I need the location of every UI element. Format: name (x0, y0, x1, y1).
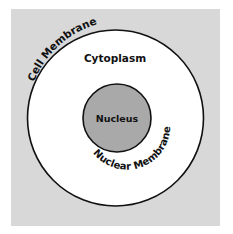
nucleus-label: Nucleus (96, 113, 139, 124)
cytoplasm-label: Cytoplasm (84, 52, 146, 64)
cell-diagram: Cytoplasm Nucleus Cell Membrane Nuclear … (0, 0, 233, 234)
